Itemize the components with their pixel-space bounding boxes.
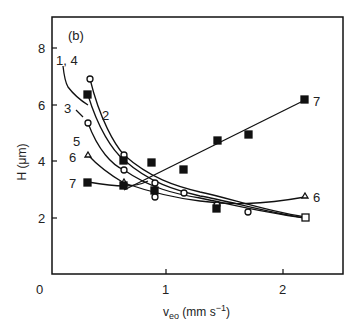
curve-2 [90, 79, 305, 217]
x-tick-1: 1 [162, 282, 169, 297]
panel-label: (b) [68, 28, 84, 43]
label-6-left: 6 [69, 150, 76, 165]
origin-label: 0 [36, 282, 43, 297]
curve-1-4-leader [63, 66, 88, 105]
label-7-left: 7 [69, 176, 76, 191]
y-tick-4: 4 [38, 154, 45, 169]
label-3: 3 [64, 101, 71, 116]
label-2: 2 [102, 108, 109, 123]
plot-frame [52, 17, 343, 274]
chart: 8 6 4 2 0 1 2 veo (mm s−1) H (μm) (b) [0, 0, 364, 336]
y-tick-8: 8 [38, 41, 45, 56]
markers [84, 76, 309, 221]
label-5: 5 [73, 134, 80, 149]
label-6-right: 6 [313, 190, 320, 205]
x-axis-title: veo (mm s−1) [163, 303, 230, 321]
curve-7-fit [124, 100, 305, 190]
y-tick-6: 6 [38, 98, 45, 113]
x-tick-2: 2 [279, 282, 286, 297]
curve-7-low [88, 181, 148, 186]
y-tick-2: 2 [38, 211, 45, 226]
label-7-right: 7 [313, 94, 320, 109]
y-axis-title: H (μm) [15, 144, 29, 181]
label-1-4: 1, 4 [56, 53, 78, 68]
